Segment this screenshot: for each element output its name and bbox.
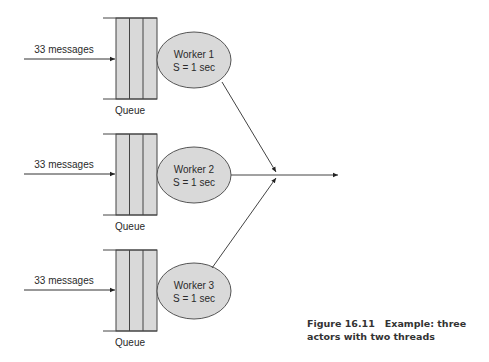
worker-1-name: Worker 1: [174, 49, 215, 60]
worker-1: [157, 32, 231, 88]
figure-number: Figure 16.11: [307, 318, 375, 329]
queue-label-1: Queue: [115, 105, 145, 116]
worker-2: [157, 147, 231, 203]
row-2: 33 messages Queue Worker 2 S = 1 sec: [24, 134, 231, 232]
queue-label-2: Queue: [115, 221, 145, 232]
worker-3: [157, 263, 231, 319]
input-label-2: 33 messages: [34, 159, 93, 170]
worker-2-service: S = 1 sec: [173, 177, 215, 188]
worker-2-name: Worker 2: [174, 164, 215, 175]
queue-worker-diagram: 33 messages Queue Worker 1 S = 1 sec 33 …: [0, 0, 489, 362]
row-1: 33 messages Queue Worker 1 S = 1 sec: [24, 18, 231, 116]
worker-3-service: S = 1 sec: [173, 293, 215, 304]
input-label-1: 33 messages: [34, 44, 93, 55]
queue-label-3: Queue: [115, 337, 145, 348]
output-line-1: [222, 82, 276, 172]
input-label-3: 33 messages: [34, 275, 93, 286]
figure-caption: Figure 16.11Example: three actors with t…: [307, 317, 489, 343]
row-3: 33 messages Queue Worker 3 S = 1 sec: [24, 250, 231, 348]
worker-1-service: S = 1 sec: [173, 62, 215, 73]
worker-3-name: Worker 3: [174, 280, 215, 291]
